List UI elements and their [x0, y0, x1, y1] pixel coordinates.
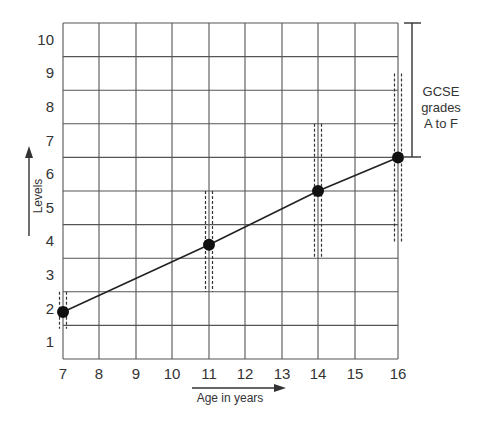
- x-tick-label: 9: [132, 365, 140, 382]
- gcse-label-line1: GCSE: [423, 84, 460, 99]
- x-tick-label: 12: [237, 365, 254, 382]
- y-tick-label: 7: [46, 132, 54, 149]
- x-tick-label: 10: [164, 365, 181, 382]
- y-tick-label: 8: [46, 98, 54, 115]
- data-point: [312, 185, 324, 197]
- gcse-bracket: [404, 23, 421, 157]
- data-point: [203, 239, 215, 251]
- gcse-label-line3: A to F: [424, 116, 458, 131]
- x-axis-ticks: 78910111213141516: [59, 365, 407, 382]
- x-tick-label: 16: [390, 365, 407, 382]
- x-tick-label: 14: [310, 365, 327, 382]
- y-tick-label: 4: [46, 232, 54, 249]
- y-tick-label: 1: [46, 333, 54, 350]
- x-tick-label: 11: [201, 365, 217, 382]
- x-tick-label: 13: [274, 365, 291, 382]
- y-tick-label: 9: [46, 64, 54, 81]
- y-tick-label: 10: [37, 31, 54, 48]
- x-tick-label: 7: [59, 365, 67, 382]
- data-line: [63, 157, 398, 312]
- data-point: [57, 306, 69, 318]
- x-tick-label: 15: [347, 365, 364, 382]
- attainment-chart: 12345678910 78910111213141516 GCSE grade…: [0, 0, 478, 424]
- y-tick-label: 6: [46, 165, 54, 182]
- gcse-label-line2: grades: [421, 100, 461, 115]
- data-point: [392, 151, 404, 163]
- y-tick-label: 3: [46, 266, 54, 283]
- y-tick-label: 5: [46, 199, 54, 216]
- y-axis-label: Levels: [31, 179, 45, 214]
- x-tick-label: 8: [95, 365, 103, 382]
- chart-grid: [63, 23, 398, 359]
- y-tick-label: 2: [46, 300, 54, 317]
- x-axis-label: Age in years: [197, 391, 264, 405]
